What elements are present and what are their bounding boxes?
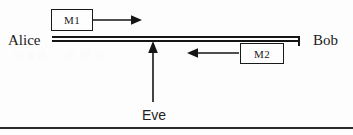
diagram-canvas: Alice Bob M1 M2 Eve [0, 0, 353, 135]
arrow-m1-right-icon [93, 13, 143, 27]
channel-rule-bottom [52, 40, 300, 42]
channel-end-cap [298, 36, 300, 46]
arrow-m2-left-icon [186, 46, 239, 60]
attacker-label-eve: Eve [142, 108, 166, 122]
scan-artifact [38, 50, 46, 59]
message-box-m1: M1 [51, 9, 93, 31]
scan-artifact [27, 51, 34, 60]
message-box-m2: M2 [240, 43, 284, 64]
endpoint-label-alice: Alice [8, 33, 40, 48]
scan-artifact [14, 52, 23, 59]
scan-artifact [66, 52, 74, 59]
bottom-divider [0, 127, 353, 129]
channel-rule-top [52, 36, 300, 38]
arrow-eve-up-icon [146, 40, 160, 102]
scan-artifact [96, 52, 105, 59]
endpoint-label-bob: Bob [313, 33, 338, 48]
communication-channel-line [52, 36, 300, 42]
scan-artifact [80, 51, 90, 59]
